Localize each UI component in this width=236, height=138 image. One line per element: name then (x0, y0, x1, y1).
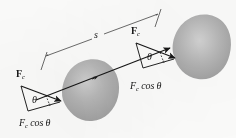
force-right-triangle-side (136, 43, 143, 68)
blob-left-shape (62, 59, 119, 121)
angle-theta-left-label: θ (32, 95, 37, 105)
force-component-left-label: Fc cos θ (19, 118, 50, 129)
force-left-triangle-side (21, 86, 28, 111)
displacement-label: s (94, 30, 98, 40)
blob-right-shape (173, 15, 231, 80)
force-vector-left-arrow (21, 86, 61, 101)
angle-theta-right-label: θ (147, 52, 152, 62)
dimension-segment-left (46, 39, 92, 56)
force-triangle-right (136, 43, 175, 68)
force-vector-right-label: Fc (131, 26, 140, 37)
extension-line-left (41, 52, 47, 70)
extension-line-right (155, 9, 161, 27)
force-component-right-label: Fc cos θ (130, 81, 161, 92)
physics-force-work-diagram: Fc Fc θ θ Fc cos θ Fc cos θ s (0, 0, 236, 138)
force-vector-right-arrow (136, 43, 175, 58)
object-right (173, 15, 231, 80)
force-vector-left-label: Fc (16, 69, 25, 80)
object-left (62, 59, 119, 121)
